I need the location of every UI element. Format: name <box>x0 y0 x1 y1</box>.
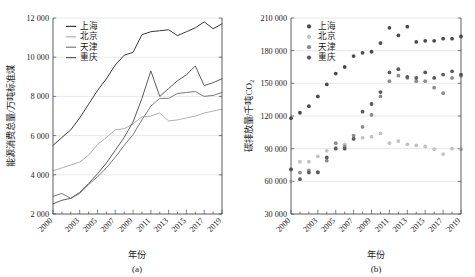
b-point <box>388 71 392 75</box>
a-line-2 <box>53 109 222 171</box>
b-x-tick-label: 2019 <box>444 216 462 234</box>
b-point <box>325 159 329 163</box>
a-x-tick-label: 2009 <box>117 216 135 234</box>
b-point <box>370 50 374 54</box>
a-x-axis-title: 年份 <box>128 249 146 260</box>
a-x-tick-label: 2017 <box>188 216 206 234</box>
b-point <box>298 177 302 181</box>
b-point <box>414 79 418 83</box>
b-point <box>405 25 409 29</box>
a-legend-label-2: 北京 <box>80 30 98 41</box>
b-point <box>370 113 374 117</box>
b-x-tick-label: 2009 <box>355 216 373 234</box>
b-point <box>450 76 454 80</box>
a-x-tick-label: 2005 <box>81 216 99 234</box>
b-x-tick-label: 2015 <box>409 216 427 234</box>
b-point <box>432 76 436 80</box>
a-line-4 <box>53 66 222 204</box>
b-x-tick-label: 2011 <box>373 216 391 234</box>
b-point <box>361 110 365 114</box>
a-x-tick-label: 2019 <box>205 216 223 234</box>
b-x-axis-ticks: 2000200320052007200920112013201520172019 <box>274 210 462 234</box>
b-point <box>423 71 427 75</box>
a-legend-label-3: 天津 <box>80 42 98 52</box>
b-legend-label-2: 北京 <box>318 30 336 41</box>
b-legend-swatch-1 <box>307 24 311 28</box>
b-point <box>441 91 445 95</box>
b-point <box>343 147 347 151</box>
a-x-tick-label: 2003 <box>63 216 81 234</box>
b-y-tick-label: 150 000 <box>260 79 287 88</box>
b-y-tick-label: 60 000 <box>264 177 287 186</box>
b-point <box>432 147 436 151</box>
b-series-points <box>289 25 463 183</box>
a-x-tick-label: 2015 <box>170 216 188 234</box>
a-x-tick-label: 2013 <box>152 216 170 234</box>
b-point <box>388 141 392 145</box>
b-point <box>325 83 329 87</box>
b-point <box>352 54 356 58</box>
b-point <box>432 86 436 90</box>
b-x-tick-label: 2017 <box>427 216 445 234</box>
b-point <box>441 73 445 77</box>
b-point <box>334 147 338 151</box>
a-series-lines <box>53 22 222 204</box>
b-legend-label-4: 重庆 <box>318 51 336 62</box>
b-x-tick-label: 2005 <box>319 216 337 234</box>
b-point <box>298 160 302 164</box>
chart-b-svg: 30 00060 00090 000120 000150 000180 0002… <box>238 0 475 277</box>
b-point <box>307 104 311 108</box>
b-point <box>370 135 374 139</box>
b-point <box>379 90 383 94</box>
chart-panel-a: 2 0004 0006 0008 00010 00012 000 2000200… <box>0 0 237 277</box>
b-point <box>334 72 338 76</box>
b-point <box>352 134 356 138</box>
b-point <box>396 34 400 38</box>
b-x-tick-label: 2003 <box>301 216 319 234</box>
a-y-tick-label: 10 000 <box>26 53 49 62</box>
b-point <box>405 142 409 146</box>
b-point <box>379 132 383 136</box>
b-point <box>316 154 320 158</box>
a-x-tick-label: 2007 <box>99 216 117 234</box>
b-point <box>352 137 356 141</box>
b-point <box>361 125 365 129</box>
b-point <box>334 141 338 145</box>
b-point <box>361 136 365 140</box>
b-point <box>325 155 329 159</box>
b-point <box>298 111 302 115</box>
a-gridlines <box>53 18 222 175</box>
b-point <box>450 147 454 151</box>
b-point <box>307 160 311 164</box>
b-point <box>441 37 445 41</box>
b-point <box>396 74 400 78</box>
b-point <box>414 40 418 44</box>
b-point <box>423 39 427 43</box>
a-y-tick-label: 12 000 <box>26 14 49 23</box>
chart-a-svg: 2 0004 0006 0008 00010 00012 000 2000200… <box>0 0 237 277</box>
b-point <box>414 76 418 80</box>
a-x-tick-label: 2011 <box>135 216 153 234</box>
b-point <box>379 95 383 99</box>
b-point <box>325 149 329 153</box>
a-line-3 <box>53 92 222 199</box>
a-y-tick-label: 4 000 <box>31 171 49 180</box>
a-y-tick-label: 6 000 <box>31 132 49 141</box>
b-point <box>423 79 427 83</box>
b-point <box>388 26 392 30</box>
b-point <box>316 170 320 174</box>
b-x-axis-title: 年份 <box>367 249 385 260</box>
a-legend-label-4: 重庆 <box>80 51 98 62</box>
b-y-tick-label: 90 000 <box>264 145 287 154</box>
b-legend-label-1: 上海 <box>318 20 336 31</box>
b-point <box>450 69 454 73</box>
b-point <box>432 39 436 43</box>
b-point <box>307 171 311 175</box>
a-legend: 上海北京天津重庆 <box>66 20 98 62</box>
b-x-tick-label: 2007 <box>337 216 355 234</box>
b-panel-caption: (b) <box>371 264 382 274</box>
b-legend-label-3: 天津 <box>318 42 336 52</box>
b-y-tick-label: 180 000 <box>260 47 287 56</box>
b-point <box>316 95 320 99</box>
b-point <box>388 79 392 83</box>
